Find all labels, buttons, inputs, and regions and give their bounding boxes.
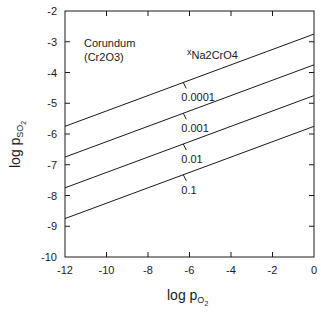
y-axis-title: log pSO2: [7, 121, 27, 168]
y-tick-label: -4: [47, 67, 57, 79]
y-tick-label: -7: [47, 159, 57, 171]
y-tick-label: -8: [47, 190, 57, 202]
x-tick-label: 0: [311, 264, 317, 276]
series-label: 0.001: [181, 122, 209, 134]
param-label-sub: Na2CrO4: [192, 49, 238, 61]
x-tick-label: -2: [268, 264, 278, 276]
x-tick-label: -12: [57, 264, 73, 276]
y-tick-label: -6: [47, 128, 57, 140]
y-tick-label: -5: [47, 97, 57, 109]
series-label: 0.1: [181, 184, 196, 196]
x-tick-label: -6: [185, 264, 195, 276]
x-axis-title: log pO2: [167, 287, 208, 307]
series-line: [65, 65, 314, 157]
series-label: 0.01: [181, 153, 202, 165]
chart: -2-3-4-5-6-7-8-9-10 -12-10-8-6-4-20 0.00…: [0, 0, 321, 314]
y-tick-label: -2: [47, 5, 57, 17]
region-label-cr2o3: (Cr2O3): [84, 51, 124, 63]
x-tick-label: -8: [143, 264, 153, 276]
y-tick-label: -10: [41, 251, 57, 263]
x-tick-label: -10: [99, 264, 115, 276]
series-line: [65, 126, 314, 218]
series-label: 0.0001: [181, 91, 215, 103]
series-line: [65, 96, 314, 188]
y-tick-label: -9: [47, 220, 57, 232]
y-tick-label: -3: [47, 36, 57, 48]
region-label-corundum: Corundum: [84, 37, 135, 49]
param-label: xNa2CrO4: [187, 47, 238, 61]
x-tick-label: -4: [226, 264, 236, 276]
y-axis-ticks: -2-3-4-5-6-7-8-9-10: [41, 5, 314, 263]
